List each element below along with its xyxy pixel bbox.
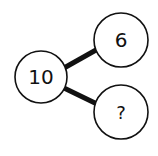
- part-label-bottom: ?: [116, 102, 126, 123]
- number-bond-diagram: 10 6 ?: [0, 0, 158, 156]
- whole-label: 10: [28, 65, 53, 89]
- connector-top: [64, 50, 96, 68]
- connector-bottom: [64, 88, 97, 104]
- part-label-top: 6: [115, 28, 128, 52]
